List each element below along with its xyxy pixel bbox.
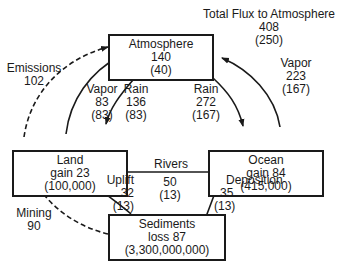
rivers-name-label: Rivers	[146, 158, 196, 171]
land-rain-label: Rain 136 (83)	[118, 83, 154, 122]
deposition-label: Deposition 35 (13)	[214, 174, 284, 213]
mining-label: Mining 90	[12, 207, 56, 233]
atmosphere-sub: (40)	[150, 64, 171, 77]
uplift-label: Uplift 32 (13)	[94, 174, 134, 213]
land-vapor-label: Vapor 83 (83)	[82, 83, 122, 122]
land-sub: (100,000)	[44, 180, 95, 193]
total-flux-label: Total Flux to Atmosphere 408 (250)	[228, 8, 338, 47]
rivers-value-label: 50 (13)	[150, 176, 190, 202]
ocean-vapor-arrow	[222, 58, 280, 127]
sediments-node: Sediments loss 87 (3,300,000,000)	[108, 214, 226, 261]
ocean-vapor-label: Vapor 223 (167)	[276, 57, 316, 96]
total-flux-sub: (250)	[200, 34, 338, 47]
emissions-label: Emissions 102	[4, 62, 64, 88]
ocean-rain-label: Rain 272 (167)	[186, 83, 226, 122]
sediments-sub: (3,300,000,000)	[125, 244, 210, 257]
atmosphere-node: Atmosphere 140 (40)	[108, 34, 214, 81]
